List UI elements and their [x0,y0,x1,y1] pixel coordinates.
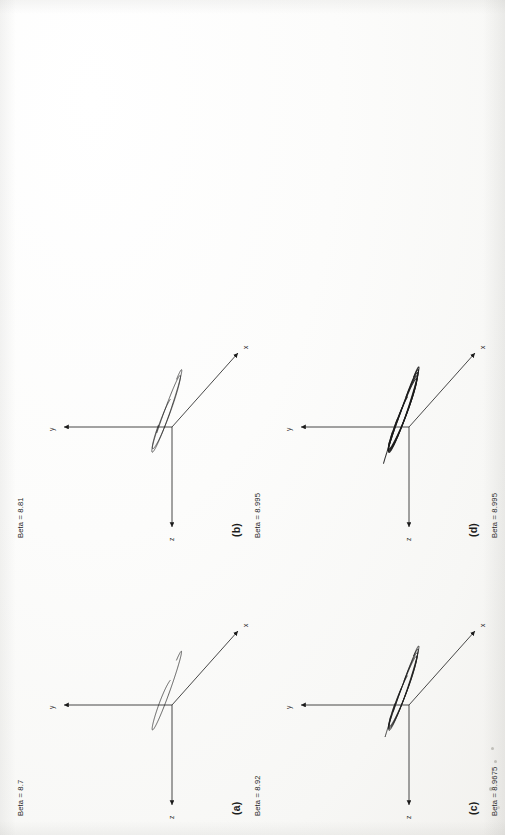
attractor-trajectory-f [488,281,505,539]
panel-e: Beta = 8.9675(e)yzx [488,559,505,817]
attractor-trajectory-a [14,559,246,817]
trajectory-pass [389,653,418,728]
trajectory-pass [152,370,182,453]
panel-b: Beta = 8.81(b)yzx [14,281,246,539]
panel-a: Beta = 8.7(a)yzx [14,559,246,817]
trajectory-pass [388,376,417,450]
trajectory-pass [385,656,417,736]
attractor-trajectory-c [251,559,483,817]
attractor-trajectory-b [14,281,246,539]
scanned-page: Beta = 8.7(a)yzxBeta = 8.81(b)yzxBeta = … [0,0,505,835]
figure-canvas: Beta = 8.7(a)yzxBeta = 8.81(b)yzxBeta = … [0,0,505,835]
panel-d: Beta = 8.995(d)yzx [251,281,483,539]
trajectory-pass [152,651,181,730]
attractor-trajectory-d [251,281,483,539]
trajectory-pass [389,649,419,729]
attractor-trajectory-e [488,559,505,817]
panel-f: Beta = 8.995(f)yzx [488,281,505,539]
panel-c: Beta = 8.92(c)yzx [251,559,483,817]
trajectory-pass [152,375,180,448]
trajectory-pass [388,373,418,451]
